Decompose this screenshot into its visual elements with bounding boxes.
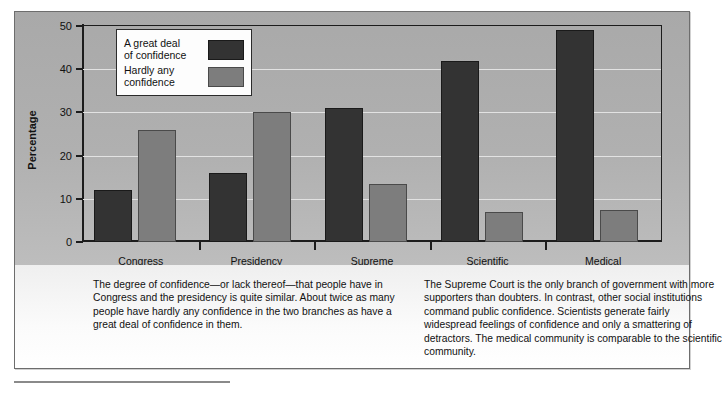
y-tick-mark: [76, 68, 83, 70]
y-tick-mark: [76, 25, 83, 27]
y-tick-mark: [76, 198, 83, 200]
y-tick-mark: [76, 155, 83, 157]
legend-swatch-hardly-any: [208, 67, 244, 87]
caption-left: The degree of confidence—or lack thereof…: [93, 278, 398, 332]
y-tick-label: 10: [60, 193, 72, 205]
bar: [600, 210, 638, 242]
bar: [369, 184, 407, 242]
x-tick-mark: [314, 242, 316, 250]
legend-item-label: Hardly any confidence: [124, 65, 175, 88]
bar: [556, 30, 594, 242]
y-tick-label: 0: [66, 236, 72, 248]
y-tick-label: 30: [60, 106, 72, 118]
bar: [441, 61, 479, 242]
legend-swatch-great-deal: [208, 40, 244, 60]
y-tick-label: 40: [60, 63, 72, 75]
x-tick-mark: [430, 242, 432, 250]
y-tick-mark: [76, 241, 83, 243]
x-tick-mark: [199, 242, 201, 250]
y-tick-label: 20: [60, 150, 72, 162]
caption-right: The Supreme Court is the only branch of …: [424, 278, 724, 358]
legend-item-great-deal: A great deal of confidence: [124, 36, 244, 63]
bar: [94, 190, 132, 242]
y-tick-label: 50: [60, 20, 72, 32]
bar: [209, 173, 247, 242]
caption-region: The degree of confidence—or lack thereof…: [15, 265, 689, 368]
figure-frame: Percentage 01020304050 A great deal of c…: [14, 11, 690, 369]
legend-item-hardly-any: Hardly any confidence: [124, 63, 244, 90]
x-tick-mark: [545, 242, 547, 250]
bar: [138, 130, 176, 242]
legend-item-label: A great deal of confidence: [124, 38, 186, 61]
footer-rule: [14, 381, 230, 383]
y-axis-title: Percentage: [26, 110, 38, 169]
chart-legend: A great deal of confidence Hardly any co…: [116, 29, 252, 96]
bar: [253, 112, 291, 242]
chart-region: Percentage 01020304050 A great deal of c…: [15, 12, 689, 265]
bar: [485, 212, 523, 242]
bar: [325, 108, 363, 242]
y-tick-mark: [76, 111, 83, 113]
